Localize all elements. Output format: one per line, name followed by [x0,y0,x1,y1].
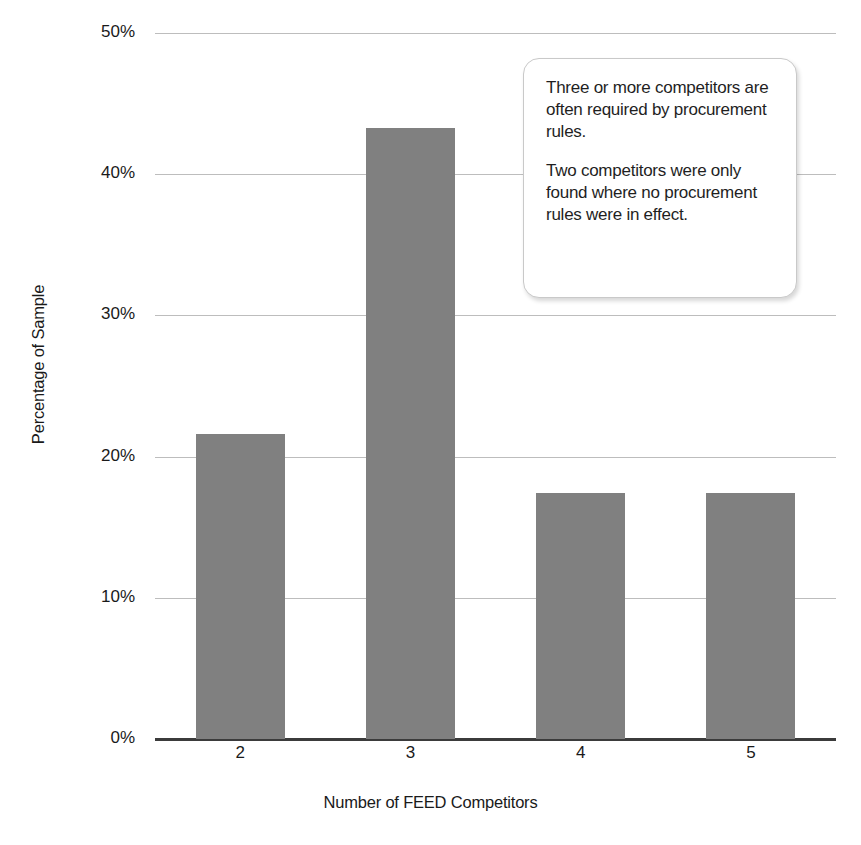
y-tick-label: 10% [17,587,135,607]
x-axis-title: Number of FEED Competitors [0,793,861,812]
callout-paragraph-2: Two competitors were only found where no… [546,160,776,225]
bar-chart: Percentage of Sample 0%10%20%30%40%50% 2… [0,0,861,845]
x-tick-label: 3 [370,743,450,763]
bar [706,493,795,739]
x-tick-label: 4 [541,743,621,763]
y-tick-label: 20% [17,446,135,466]
y-tick-label: 0% [17,728,135,748]
bar [196,434,285,739]
callout-paragraph-1: Three or more competitors are often requ… [546,77,776,142]
x-tick-label: 2 [200,743,280,763]
y-tick-label: 30% [17,304,135,324]
y-tick-label: 40% [17,163,135,183]
callout-box: Three or more competitors are often requ… [523,58,797,298]
bar [366,128,455,739]
y-tick-label: 50% [17,22,135,42]
x-tick-label: 5 [711,743,791,763]
bar [536,493,625,739]
